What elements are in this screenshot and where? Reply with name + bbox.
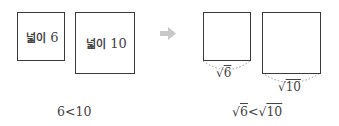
comparison-sides: √6<√10 xyxy=(232,104,282,119)
square-side-sqrt10 xyxy=(262,12,321,74)
radicand: 6 xyxy=(224,66,232,80)
side-label-sqrt6: √6 xyxy=(216,66,231,80)
less-than: < xyxy=(248,104,258,119)
lhs-radicand: 6 xyxy=(240,104,248,119)
rhs-radicand: 10 xyxy=(266,104,282,119)
side-label-sqrt10: √10 xyxy=(278,80,301,94)
right-arrow-icon xyxy=(160,27,176,40)
radicand: 10 xyxy=(286,80,301,94)
sqrt-icon: √ xyxy=(232,104,240,119)
sqrt-icon: √ xyxy=(216,66,224,80)
sqrt-icon: √ xyxy=(278,80,286,94)
square-side-sqrt6 xyxy=(203,12,251,61)
